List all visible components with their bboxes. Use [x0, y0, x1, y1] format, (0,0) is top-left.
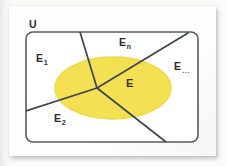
label-set-e2-subscript: 2 [62, 119, 66, 126]
label-set-e1: E1 [36, 53, 47, 64]
label-set-e-ellipsis: E... [174, 61, 189, 72]
label-set-en-subscript: n [127, 43, 131, 50]
label-universal-set: U [29, 19, 37, 30]
label-set-e2: E2 [54, 113, 65, 124]
event-e-ellipse [55, 57, 171, 119]
figure-page: U E1 En E... E2 E [0, 0, 227, 166]
label-set-e1-subscript: 1 [44, 59, 48, 66]
label-set-e-ellipsis-subscript: ... [182, 67, 190, 74]
label-set-en: En [119, 37, 131, 48]
label-event-e: E [126, 78, 134, 89]
